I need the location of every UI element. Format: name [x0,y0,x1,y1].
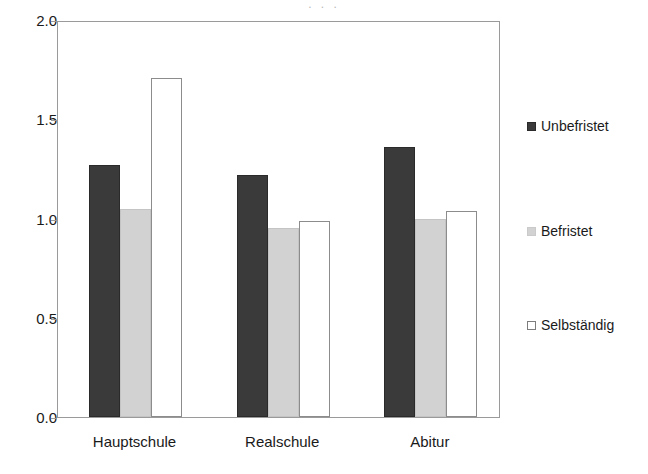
legend-entry-selbständig[interactable]: Selbständig [527,318,614,333]
filled-dark-square-icon [527,122,536,131]
cropped-title-remnant: . . . [0,0,648,8]
bars-layer [58,22,499,417]
legend-entry-label: Befristet [541,224,592,239]
x-axis-tick-label: Realschule [245,434,319,450]
x-axis: HauptschuleRealschuleAbitur [57,424,500,464]
bar-hauptschule-selbständig [151,78,182,417]
bar-abitur-unbefristet [384,147,415,417]
bar-realschule-befristet [268,228,299,417]
bar-abitur-befristet [415,219,446,418]
legend-entry-befristet[interactable]: Befristet [527,224,592,239]
y-axis: 0.00.51.01.52.0 [0,0,57,440]
bar-abitur-selbständig [446,211,477,417]
chart-legend: UnbefristetBefristetSelbständig [527,21,648,421]
bar-hauptschule-befristet [120,209,151,417]
bar-realschule-selbständig [299,221,330,418]
legend-entry-label: Selbständig [541,318,614,333]
legend-entry-label: Unbefristet [541,119,609,134]
y-axis-tick-mark [51,418,57,419]
bar-chart-figure: . . . 0.00.51.01.52.0 HauptschuleRealsch… [0,0,648,474]
bar-realschule-unbefristet [237,175,268,417]
outlined-white-square-icon [527,321,536,330]
plot-area [57,21,500,418]
filled-light-gray-square-icon [527,227,536,236]
x-axis-tick-label: Abitur [410,434,449,450]
legend-entry-unbefristet[interactable]: Unbefristet [527,119,609,134]
bar-hauptschule-unbefristet [89,165,120,417]
x-axis-tick-label: Hauptschule [93,434,176,450]
